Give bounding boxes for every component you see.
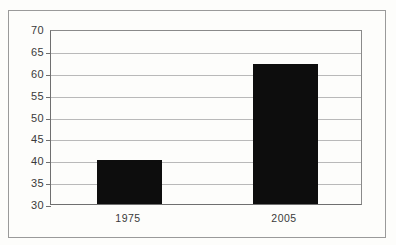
y-axis-tick [46,53,51,54]
chart-screenshot: 303540455055606570 19752005 [0,0,396,245]
bar-chart-figure: 303540455055606570 19752005 [0,0,396,245]
y-axis-tick-label: 55 [31,91,44,102]
x-axis-tick-label: 1975 [50,212,206,224]
y-axis-tick-label: 45 [31,134,44,145]
bar [253,64,318,204]
y-axis-tick-label: 50 [31,113,44,124]
y-axis-tick-label: 30 [31,200,44,211]
x-axis-tick-label: 2005 [206,212,362,224]
y-axis-tick-label: 40 [31,156,44,167]
y-axis-tick [46,184,51,185]
y-axis-tick [46,75,51,76]
y-axis-tick [46,119,51,120]
plot-area [50,30,362,205]
bar [97,160,162,204]
gridline [51,53,361,54]
y-axis-tick [46,206,51,207]
y-axis-tick-label: 65 [31,47,44,58]
y-axis-tick-label: 35 [31,178,44,189]
y-axis-tick [46,162,51,163]
y-axis-tick [46,97,51,98]
y-axis-tick [46,140,51,141]
y-axis-tick-label: 70 [31,25,44,36]
y-axis-tick-label: 60 [31,69,44,80]
